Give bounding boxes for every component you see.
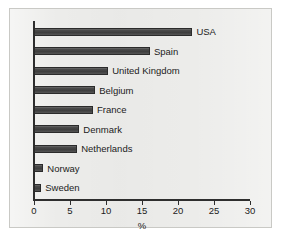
bar	[34, 106, 93, 114]
bar-category-label: Belgium	[99, 86, 133, 96]
bar-category-label: Norway	[47, 164, 79, 174]
bar-category-label: United Kingdom	[112, 66, 180, 76]
bar-row: Spain	[34, 42, 178, 62]
x-axis-title: %	[138, 221, 146, 231]
bar-row: United Kingdom	[34, 61, 180, 81]
bar-row: France	[34, 100, 127, 120]
bar-row: Norway	[34, 159, 80, 179]
bar	[34, 145, 77, 153]
x-tick-label: 30	[245, 206, 256, 216]
bar-row: Netherlands	[34, 139, 132, 159]
bar-category-label: Sweden	[45, 183, 79, 193]
bar-row: Belgium	[34, 81, 134, 101]
bar	[34, 67, 108, 75]
x-tick-label: 5	[67, 206, 72, 216]
bar-row: USA	[34, 22, 216, 42]
x-tick-label: 25	[209, 206, 220, 216]
bar-category-label: France	[97, 105, 127, 115]
x-tick-label: 10	[101, 206, 112, 216]
x-tick-label: 20	[173, 206, 184, 216]
plot-area: USASpainUnited KingdomBelgiumFranceDenma…	[34, 21, 250, 199]
bar-row: Denmark	[34, 120, 122, 140]
bar-category-label: Spain	[154, 47, 178, 57]
bar-category-label: USA	[196, 27, 216, 37]
bar-row: Sweden	[34, 178, 80, 198]
chart-plate: USASpainUnited KingdomBelgiumFranceDenma…	[9, 8, 272, 228]
bar	[34, 28, 192, 36]
bar	[34, 125, 79, 133]
bar-category-label: Denmark	[83, 125, 122, 135]
x-tick-label: 15	[137, 206, 148, 216]
bar	[34, 86, 95, 94]
x-tick-label: 0	[31, 206, 36, 216]
bar	[34, 164, 43, 172]
bar	[34, 47, 150, 55]
bar-category-label: Netherlands	[81, 144, 132, 154]
bar	[34, 184, 41, 192]
chart-figure: USASpainUnited KingdomBelgiumFranceDenma…	[0, 0, 281, 236]
